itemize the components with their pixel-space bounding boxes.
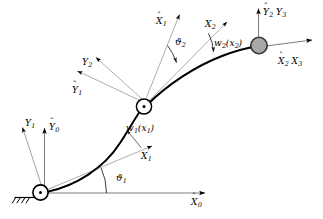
diagram-canvas xyxy=(0,0,323,219)
label-y0-hat: ˆY0 xyxy=(49,123,59,132)
label-x0-hat: ˆX0 xyxy=(191,198,202,207)
label-theta2: ϑ2 xyxy=(175,38,186,47)
label-x1-link: X1 xyxy=(141,152,152,161)
label-x2-hat-x3: ˆX2X3 xyxy=(278,57,302,66)
kinematics-figure: Y1 ˆY0 ˆX0 ϑ1 X1 w1(x1) ˆY1 Y2 ˆX1 ϑ2 X2… xyxy=(0,0,323,219)
label-y1-hat: ˆY1 xyxy=(72,86,82,95)
label-x2: X2 xyxy=(205,20,216,29)
axis-y2-line xyxy=(96,58,142,99)
angle-theta2-arc xyxy=(168,46,177,63)
label-w1: w1(x1) xyxy=(126,124,154,133)
axis-y1-base-line xyxy=(23,128,44,191)
angle-theta1-arc xyxy=(101,168,107,193)
label-x1-hat: ˆX1 xyxy=(156,17,167,26)
label-y1-base: Y1 xyxy=(25,119,35,128)
axis-x2-hat-x3-line xyxy=(266,40,312,46)
hatched-ground-support xyxy=(12,197,37,203)
payload-mass xyxy=(251,37,267,53)
label-y2-hat-y3: ˆY2Y3 xyxy=(263,8,286,17)
label-theta1: ϑ1 xyxy=(116,174,127,183)
label-w2: w2(x2) xyxy=(214,39,242,48)
label-y2: Y2 xyxy=(82,58,92,67)
pin-joint-base xyxy=(33,185,48,200)
revolute-joint-middle xyxy=(136,99,151,114)
axis-y1-hat-line xyxy=(78,71,141,101)
